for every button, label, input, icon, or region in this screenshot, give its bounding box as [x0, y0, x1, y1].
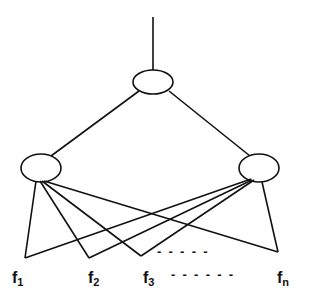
edge-left-f3: [42, 181, 141, 256]
ellipsis-lower: - - - - - -: [171, 268, 233, 281]
edge-right-fn: [262, 182, 278, 252]
leaf-label-f3: f3: [143, 270, 154, 286]
edge-left-f1: [25, 181, 36, 258]
right-child-node: [239, 154, 279, 182]
leaf-label-fn: fn: [277, 270, 289, 286]
leaf-label-f2: f2: [88, 270, 99, 286]
edge-root-left: [51, 91, 139, 156]
left-child-node: [21, 154, 61, 182]
root-node: [133, 70, 173, 94]
leaf-label-f1: f1: [12, 270, 23, 286]
edge-root-right: [169, 91, 250, 156]
tree-diagram: [0, 0, 312, 305]
edge-right-f1: [25, 179, 251, 258]
ellipsis-upper: - - - - -: [157, 245, 208, 258]
